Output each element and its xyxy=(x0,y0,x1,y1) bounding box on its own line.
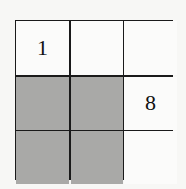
cell-r2-c3: 8 xyxy=(124,77,177,130)
cell-r1-c1: 1 xyxy=(16,21,69,75)
cell-r1-c2 xyxy=(71,21,123,75)
number-grid: 1 8 xyxy=(15,20,173,180)
cell-r3-c3 xyxy=(124,131,177,184)
cell-r1-c3 xyxy=(124,21,177,75)
cell-r2-c1 xyxy=(16,77,69,130)
cell-r3-c2 xyxy=(71,131,123,184)
cell-r2-c2 xyxy=(71,77,123,130)
cell-r3-c1 xyxy=(16,131,69,184)
